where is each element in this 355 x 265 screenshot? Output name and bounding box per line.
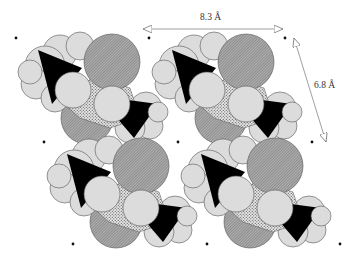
molecule-bottom-right — [181, 136, 331, 248]
lattice-point — [284, 37, 287, 40]
lattice-point — [311, 141, 314, 144]
lattice-point — [339, 243, 342, 246]
lattice-point — [206, 243, 209, 246]
lattice-point — [148, 37, 151, 40]
molecular-packing-diagram — [0, 0, 355, 265]
b-axis-arrow — [294, 38, 326, 142]
b-axis-label: 6.8 Å — [314, 80, 335, 90]
molecule-top-left — [18, 32, 168, 144]
molecule-top-right — [152, 32, 302, 144]
lattice-point — [72, 243, 75, 246]
lattice-point — [177, 141, 180, 144]
lattice-point — [15, 37, 18, 40]
a-axis-label: 8.3 Å — [200, 12, 221, 22]
lattice-point — [43, 141, 46, 144]
molecule-bottom-left — [47, 136, 197, 248]
